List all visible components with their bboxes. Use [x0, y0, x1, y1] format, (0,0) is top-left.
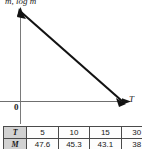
data-table: T 5 10 15 30 M 47.6 45.3 43.1 38 — [3, 126, 142, 149]
table-row: M 47.6 45.3 43.1 38 — [4, 139, 143, 150]
graph-svg — [0, 0, 142, 124]
data-line-start-arrow-icon — [17, 8, 26, 19]
data-line-segment — [21, 12, 122, 101]
table-cell-m-4: 38 — [121, 139, 142, 150]
x-axis — [0, 98, 131, 105]
y-axis-label-log-argument: m — [30, 0, 37, 6]
figure-page: m, log m T 0 T 5 10 15 30 M 47.6 45.3 43… — [0, 0, 142, 149]
y-axis-label: m, log m — [5, 0, 36, 6]
x-axis-label: T — [129, 95, 134, 104]
table-cell-m-2: 45.3 — [58, 139, 89, 150]
table-cell-m-1: 47.6 — [27, 139, 58, 150]
table-cell-m-3: 43.1 — [90, 139, 121, 150]
table-row: T 5 10 15 30 — [4, 127, 143, 139]
table-cell-t-3: 15 — [90, 127, 121, 139]
table-cell-t-4: 30 — [121, 127, 142, 139]
origin-label: 0 — [14, 103, 19, 112]
table-row-header-t: T — [4, 127, 27, 139]
table-row-header-m: M — [4, 139, 27, 150]
data-line — [17, 8, 126, 107]
table-cell-t-1: 5 — [27, 127, 58, 139]
y-axis-label-log: log — [16, 0, 28, 6]
graph-area: m, log m T 0 — [0, 0, 142, 124]
table-cell-t-2: 10 — [58, 127, 89, 139]
